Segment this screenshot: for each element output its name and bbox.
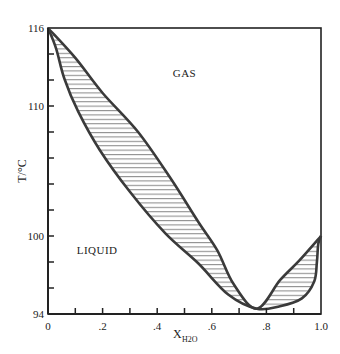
x-tick-label: .6 [208, 320, 217, 332]
x-tick-label: .4 [153, 320, 162, 332]
x-tick-label: .2 [98, 320, 106, 332]
phase-diagram: 0.2.4.6.81.011611010094XH2OT/°CGASLIQUID [0, 0, 340, 354]
y-tick-label: 100 [28, 230, 45, 242]
x-tick-label: 0 [45, 320, 51, 332]
y-tick-label: 110 [28, 100, 45, 112]
x-axis-subscript: H2O [182, 335, 198, 344]
x-tick-label: 1.0 [314, 320, 328, 332]
y-tick-label: 94 [33, 308, 45, 320]
y-tick-label: 116 [28, 22, 45, 34]
y-axis-title: T/°C [15, 159, 29, 182]
x-tick-label: .8 [262, 320, 271, 332]
gas-region-label: GAS [173, 67, 197, 79]
liquid-region-label: LIQUID [77, 244, 118, 256]
x-axis-title: X [173, 327, 182, 341]
